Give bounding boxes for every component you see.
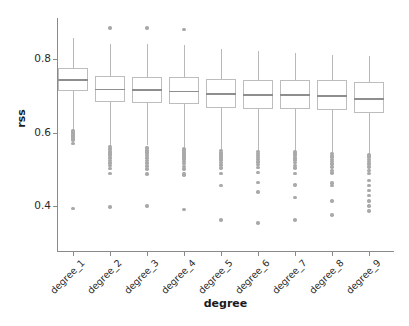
chart-root: 0.40.60.8 degree_1degree_2degree_3degree… [0, 0, 409, 326]
y-tick-label-wrap: 0.4 [0, 199, 51, 211]
outlier-point [145, 204, 148, 207]
median-line [206, 93, 236, 95]
y-tick-label: 0.8 [34, 52, 51, 64]
outlier-point [367, 199, 370, 202]
x-tick-mark [332, 252, 333, 256]
outlier-point [256, 190, 259, 193]
outlier-point [256, 166, 259, 169]
x-axis-line [57, 251, 394, 252]
y-tick-mark [53, 133, 57, 134]
outlier-point [330, 213, 333, 216]
outlier-point [367, 189, 370, 192]
outlier-point [330, 171, 333, 174]
outlier-point [145, 26, 148, 29]
outlier-point [256, 221, 259, 224]
median-line [58, 79, 88, 81]
outlier-point [182, 208, 185, 211]
outlier-point [293, 183, 296, 186]
y-tick-mark [53, 206, 57, 207]
outlier-point [367, 179, 370, 182]
outlier-point [182, 28, 185, 31]
x-tick-mark [73, 252, 74, 256]
y-tick-label-wrap: 0.8 [0, 52, 51, 64]
outlier-point [293, 196, 296, 199]
x-tick-mark [110, 252, 111, 256]
outlier-point [219, 218, 222, 221]
x-axis-title: degree [57, 297, 394, 310]
median-line [243, 94, 273, 96]
x-tick-mark [221, 252, 222, 256]
x-tick-mark [295, 252, 296, 256]
outlier-point [367, 209, 370, 212]
outlier-point [367, 194, 370, 197]
outlier-point [219, 172, 222, 175]
outlier-point [330, 199, 333, 202]
outlier-point [108, 26, 111, 29]
y-tick-label: 0.6 [34, 126, 51, 138]
x-tick-label-degree_1: degree_1 [0, 257, 87, 326]
outlier-point [293, 166, 296, 169]
median-line [169, 91, 199, 93]
outlier-point [367, 172, 370, 175]
outlier-point [182, 173, 185, 176]
outlier-point [367, 204, 370, 207]
outlier-point [145, 172, 148, 175]
outlier-point [367, 184, 370, 187]
outlier-point [108, 167, 111, 170]
x-tick-mark [258, 252, 259, 256]
outlier-point [293, 218, 296, 221]
median-line [354, 98, 384, 100]
outlier-point [330, 184, 333, 187]
outlier-point [256, 171, 259, 174]
median-line [95, 89, 125, 91]
outlier-point [108, 172, 111, 175]
boxplot-canvas: 0.40.60.8 degree_1degree_2degree_3degree… [0, 0, 409, 326]
outlier-point [219, 166, 222, 169]
outlier-point [256, 181, 259, 184]
outlier-point [108, 205, 111, 208]
y-tick-mark [53, 59, 57, 60]
x-tick-mark [369, 252, 370, 256]
outlier-point [145, 167, 148, 170]
median-line [280, 94, 310, 96]
x-tick-mark [147, 252, 148, 256]
outlier-point [71, 142, 74, 145]
y-axis-line [57, 18, 58, 251]
median-line [132, 89, 162, 91]
median-line [317, 95, 347, 97]
outlier-point [71, 207, 74, 210]
outlier-point [293, 172, 296, 175]
y-axis-title: rss [15, 89, 28, 149]
y-tick-label: 0.4 [34, 199, 51, 211]
outlier-point [182, 167, 185, 170]
outlier-point [219, 184, 222, 187]
x-tick-mark [184, 252, 185, 256]
